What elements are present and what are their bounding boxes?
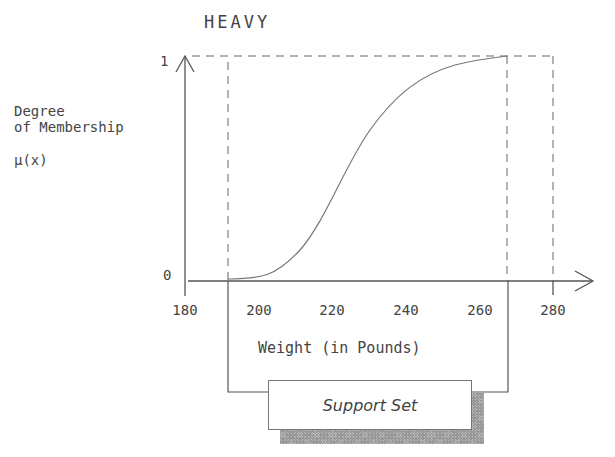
support-bracket xyxy=(228,281,508,392)
dashed-guides xyxy=(192,56,553,281)
support-set-label: Support Set xyxy=(323,396,418,415)
support-set-label-box: Support Set xyxy=(268,380,472,430)
membership-curve xyxy=(228,56,507,279)
